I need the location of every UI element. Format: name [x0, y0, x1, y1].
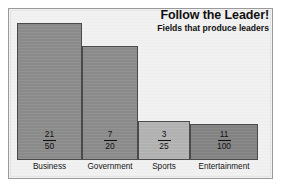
bar-government: 720	[82, 46, 138, 160]
fraction-denominator: 25	[139, 141, 189, 150]
chart-figure: Follow the Leader! Fields that produce l…	[0, 0, 281, 190]
bar-group: 215072032511100	[17, 13, 258, 160]
fraction-denominator: 100	[191, 141, 257, 150]
fraction-denominator: 20	[83, 141, 137, 150]
fraction-denominator: 50	[18, 141, 81, 150]
category-label-entertainment: Entertainment	[190, 162, 258, 171]
fraction-numerator: 11	[191, 130, 257, 139]
bar-sports: 325	[138, 121, 190, 160]
bar-value-fraction: 720	[83, 130, 137, 150]
fraction-numerator: 7	[83, 130, 137, 139]
fraction-numerator: 21	[18, 130, 81, 139]
category-label-sports: Sports	[138, 162, 190, 171]
category-label-government: Government	[82, 162, 138, 171]
bar-business: 2150	[17, 23, 82, 160]
bar-entertainment: 11100	[190, 124, 258, 160]
category-label-business: Business	[17, 162, 82, 171]
axis-baseline	[17, 159, 258, 160]
bar-value-fraction: 325	[139, 130, 189, 150]
fraction-numerator: 3	[139, 130, 189, 139]
category-axis-labels: BusinessGovernmentSportsEntertainment	[17, 162, 258, 176]
plot-area: 215072032511100	[17, 13, 258, 160]
bar-value-fraction: 2150	[18, 130, 81, 150]
bar-value-fraction: 11100	[191, 130, 257, 150]
